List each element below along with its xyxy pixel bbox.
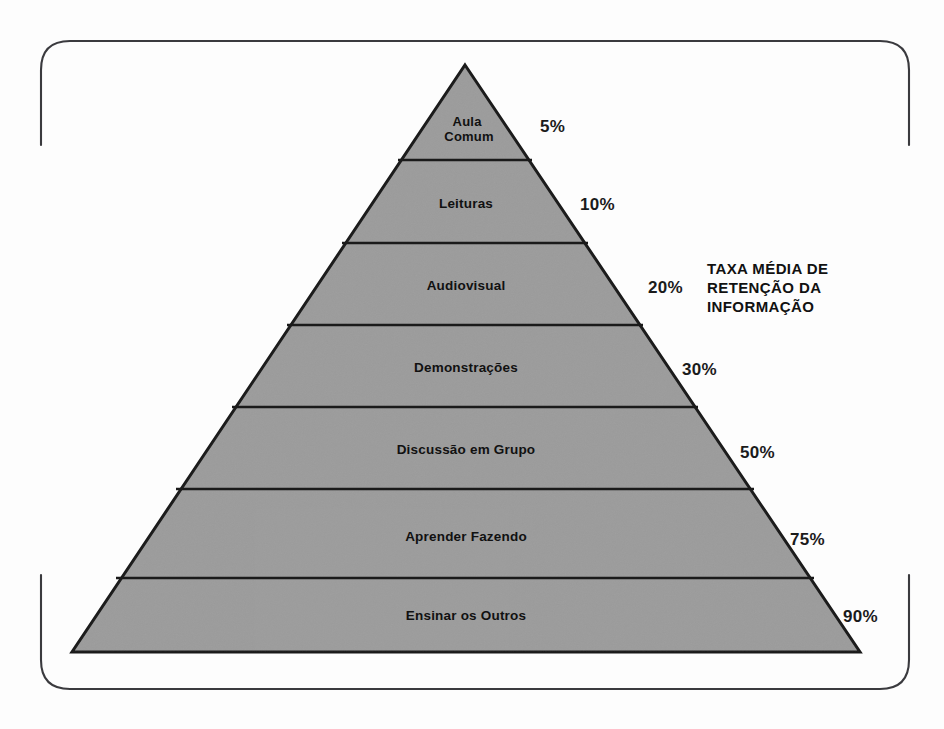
band-label-discussao-em-grupo: Discussão em Grupo bbox=[397, 442, 536, 457]
pct-label-10: 10% bbox=[580, 195, 615, 214]
band-label-demonstracoes: Demonstrações bbox=[414, 360, 518, 375]
band-label-leituras: Leituras bbox=[439, 196, 493, 211]
pct-label-20: 20% bbox=[648, 278, 683, 297]
band-label-line: Comum bbox=[444, 129, 493, 144]
chart-title-line: INFORMAÇÃO bbox=[707, 298, 814, 315]
pct-label-50: 50% bbox=[740, 443, 775, 462]
band-label-line: Aula bbox=[453, 114, 483, 129]
pct-label-5: 5% bbox=[540, 117, 565, 136]
band-label-aprender-fazendo: Aprender Fazendo bbox=[405, 529, 527, 544]
pct-label-75: 75% bbox=[790, 530, 825, 549]
figure-stage: Aula Comum Leituras Audiovisual Demonstr… bbox=[0, 0, 944, 729]
chart-title-line: RETENÇÃO DA bbox=[707, 279, 821, 296]
chart-title-line: TAXA MÉDIA DE bbox=[707, 260, 828, 277]
band-label-audiovisual: Audiovisual bbox=[427, 278, 506, 293]
chart-title-block: TAXA MÉDIA DE RETENÇÃO DA INFORMAÇÃO bbox=[707, 260, 833, 315]
learning-pyramid-figure: Aula Comum Leituras Audiovisual Demonstr… bbox=[0, 0, 944, 729]
chart-title: TAXA MÉDIA DE RETENÇÃO DA INFORMAÇÃO bbox=[707, 260, 833, 315]
pct-label-90: 90% bbox=[843, 607, 878, 626]
pct-label-30: 30% bbox=[682, 360, 717, 379]
band-label-ensinar-os-outros: Ensinar os Outros bbox=[406, 608, 526, 623]
